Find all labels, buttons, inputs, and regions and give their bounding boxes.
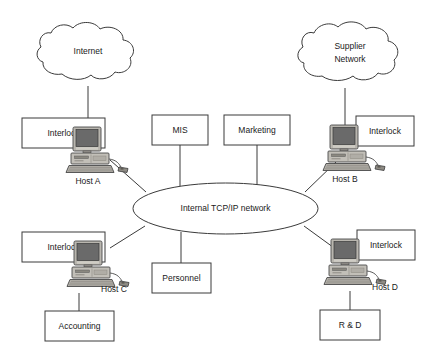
box-interlock-d-label: Interlock: [370, 240, 403, 250]
box-rnd-label: R & D: [339, 320, 362, 330]
network-diagram: Internet Supplier Network Internal TCP/I…: [0, 0, 434, 362]
network-ellipse-label: Internal TCP/IP network: [181, 203, 272, 213]
link-host-c-to-network: [110, 226, 145, 248]
box-personnel: Personnel: [152, 263, 211, 293]
box-interlock-host-b: Interlock: [356, 116, 414, 146]
box-personnel-label: Personnel: [162, 273, 200, 283]
cloud-supplier-network: Supplier Network: [298, 22, 398, 81]
computer-icon-host-a: [66, 127, 128, 173]
box-accounting: Accounting: [45, 311, 114, 341]
cloud-internet: Internet: [37, 22, 133, 79]
computer-host-a: Host A: [66, 127, 128, 186]
host-c-label: Host C: [101, 284, 127, 294]
computer-host-c: Host C: [67, 241, 129, 294]
box-marketing-label: Marketing: [238, 125, 276, 135]
network-ellipse: Internal TCP/IP network: [133, 183, 318, 234]
box-marketing: Marketing: [224, 115, 290, 145]
cloud-supplier-label-line1: Supplier: [334, 41, 365, 51]
box-mis: MIS: [152, 115, 208, 145]
host-a-label: Host A: [75, 176, 100, 186]
box-accounting-label: Accounting: [58, 321, 100, 331]
box-interlock-b-label: Interlock: [369, 126, 402, 136]
cloud-internet-label: Internet: [74, 46, 103, 56]
box-rnd: R & D: [320, 310, 380, 340]
host-d-label: Host D: [372, 282, 398, 292]
box-interlock-host-d: Interlock: [357, 230, 415, 260]
box-mis-label: MIS: [172, 125, 187, 135]
computer-icon-host-c: [67, 241, 129, 287]
host-b-label: Host B: [332, 174, 358, 184]
link-host-a-to-network: [110, 160, 146, 192]
cloud-supplier-label-line2: Network: [334, 54, 366, 64]
diagram-canvas: Internet Supplier Network Internal TCP/I…: [0, 0, 434, 362]
